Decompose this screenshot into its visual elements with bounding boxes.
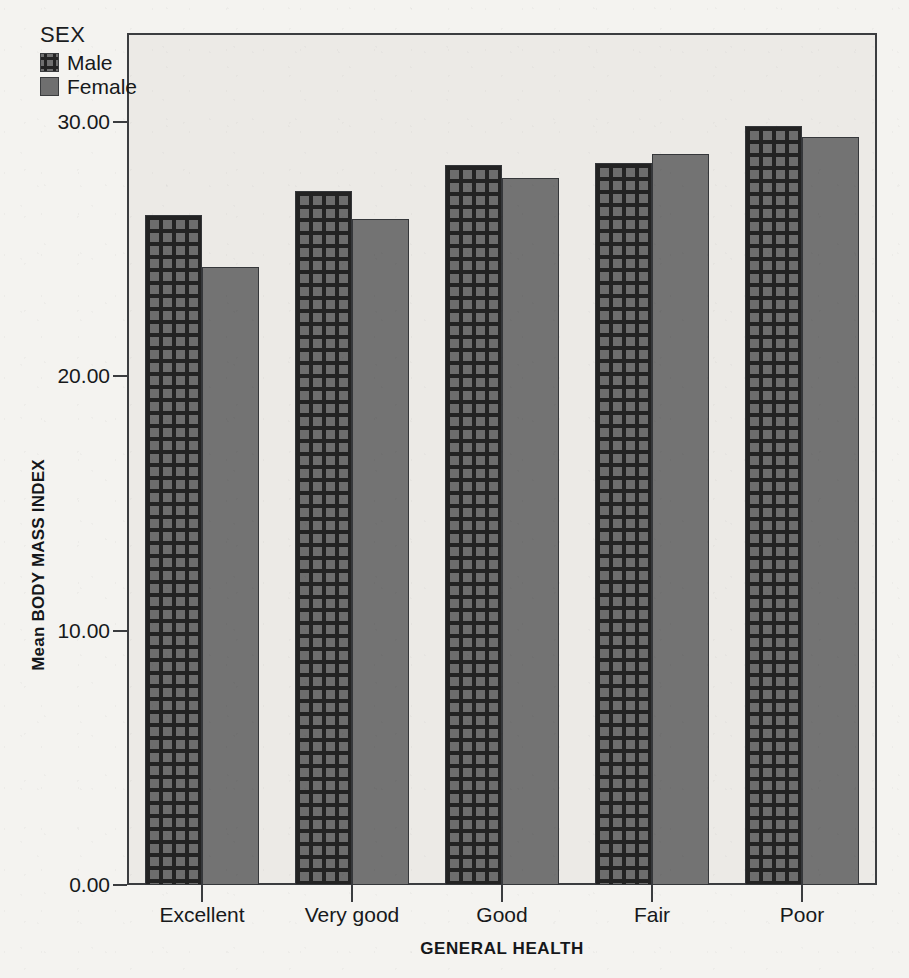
legend: SEX MaleFemale [40,22,137,97]
x-tick-mark [651,885,653,902]
x-axis-title: GENERAL HEALTH [127,939,877,959]
bar-male-poor [745,126,802,885]
bar-female-excellent [202,267,259,885]
bar-male-good [445,165,502,885]
y-tick-label: 30.00 [18,110,110,134]
x-tick-mark [801,885,803,902]
y-tick-mark [113,884,127,886]
x-tick-mark [201,885,203,902]
bar-female-fair [652,154,709,885]
y-axis-title: Mean BODY MASS INDEX [29,440,49,690]
bar-chart-figure: Mean BODY MASS INDEX 0.0010.0020.0030.00… [0,0,909,978]
bar-male-fair [595,163,652,885]
legend-entries: MaleFemale [40,52,137,97]
legend-item-label: Male [67,52,113,73]
bar-male-very-good [295,191,352,885]
x-tick-mark [351,885,353,902]
y-tick-label: 10.00 [18,619,110,643]
legend-item-label: Female [67,76,137,97]
legend-item-male: Male [40,52,137,73]
legend-item-female: Female [40,76,137,97]
y-tick-mark [113,375,127,377]
solid-gray-swatch [40,77,59,96]
bar-male-excellent [145,215,202,885]
y-tick-mark [113,630,127,632]
x-tick-label-poor: Poor [707,903,897,927]
y-tick-label: 0.00 [18,873,110,897]
legend-title: SEX [40,22,137,48]
x-tick-mark [501,885,503,902]
grid-hatch-swatch [40,53,59,72]
y-tick-mark [113,121,127,123]
bar-female-good [502,178,559,885]
y-tick-label: 20.00 [18,364,110,388]
bar-female-very-good [352,219,409,885]
bar-female-poor [802,137,859,885]
